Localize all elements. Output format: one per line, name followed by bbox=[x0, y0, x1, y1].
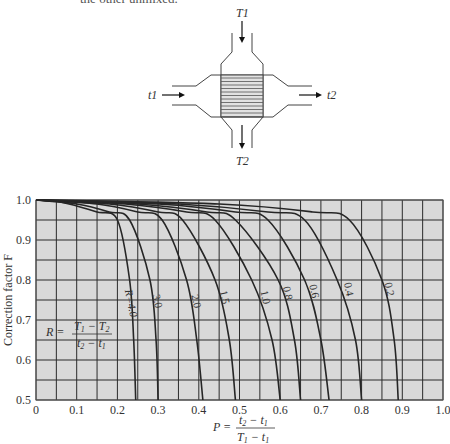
y-axis-label: Correction factor F bbox=[1, 254, 15, 346]
label-T2: T2 bbox=[236, 154, 249, 168]
y-axis-ticks: 0.50.60.70.80.91.0 bbox=[16, 193, 31, 407]
x-tick-label: 0.3 bbox=[151, 403, 166, 417]
y-tick-label: 0.8 bbox=[16, 273, 31, 287]
svg-text:P =: P = bbox=[212, 420, 231, 434]
x-tick-label: 0.8 bbox=[354, 403, 369, 417]
svg-text:R =: R = bbox=[45, 325, 64, 339]
label-T1: T1 bbox=[236, 6, 249, 20]
x-tick-label: 0.1 bbox=[69, 403, 84, 417]
svg-text:T1 − t1: T1 − t1 bbox=[237, 430, 269, 444]
figure: T1 T2 t1 t2 R=4.03.02.01.51.00.80.60.40.… bbox=[0, 0, 450, 444]
exchanger-diagram bbox=[162, 21, 322, 149]
x-tick-label: 0.6 bbox=[273, 403, 288, 417]
y-tick-label: 0.7 bbox=[16, 313, 31, 327]
y-tick-label: 0.6 bbox=[16, 353, 31, 367]
correction-factor-chart: R=4.03.02.01.51.00.80.60.40.2 00.10.20.3… bbox=[16, 193, 450, 417]
x-tick-label: 0.4 bbox=[191, 403, 206, 417]
x-tick-label: 1.0 bbox=[436, 403, 450, 417]
x-tick-label: 0.7 bbox=[313, 403, 328, 417]
grid-lines bbox=[36, 200, 443, 400]
label-t2: t2 bbox=[327, 88, 336, 102]
x-axis-label: P = t2 − t1 T1 − t1 bbox=[212, 413, 275, 444]
x-tick-label: 0.2 bbox=[110, 403, 125, 417]
y-tick-label: 1.0 bbox=[16, 193, 31, 207]
svg-text:T1 − T2: T1 − T2 bbox=[74, 319, 109, 334]
y-tick-label: 0.5 bbox=[16, 393, 31, 407]
y-tick-label: 0.9 bbox=[16, 233, 31, 247]
x-tick-label: 0.9 bbox=[395, 403, 410, 417]
label-t1: t1 bbox=[148, 88, 157, 102]
x-tick-label: 0 bbox=[33, 403, 39, 417]
